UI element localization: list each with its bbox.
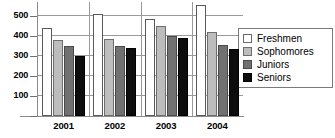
- y-tick-mark: [30, 36, 37, 37]
- x-tick-label-2004: 2004: [187, 120, 247, 131]
- bar-freshmen-2002: [93, 14, 103, 116]
- legend-label: Seniors: [257, 72, 291, 83]
- y-tick-label: 400: [0, 31, 28, 40]
- y-tick-mark: [30, 76, 37, 77]
- y-tick-mark: [30, 16, 37, 17]
- bar-chart: 100200300400500 2001200220032004 Freshme…: [0, 0, 335, 138]
- chart-legend: FreshmenSophomoresJuniorsSeniors: [238, 28, 333, 88]
- y-tick-label: 500: [0, 11, 28, 20]
- bar-group: [89, 2, 140, 116]
- legend-swatch-icon: [243, 73, 252, 82]
- x-axis-line: [20, 116, 244, 117]
- y-tick-mark: [30, 56, 37, 57]
- bar-juniors-2004: [218, 45, 228, 116]
- legend-item-sophomores[interactable]: Sophomores: [243, 45, 329, 58]
- legend-label: Freshmen: [257, 33, 302, 44]
- bar-seniors-2004: [229, 49, 239, 116]
- legend-swatch-icon: [243, 34, 252, 43]
- bar-seniors-2003: [178, 38, 188, 116]
- legend-swatch-icon: [243, 60, 252, 69]
- bar-juniors-2001: [64, 46, 74, 116]
- y-tick-label: 300: [0, 51, 28, 60]
- bar-sophomores-2004: [207, 32, 217, 116]
- legend-swatch-icon: [243, 47, 252, 56]
- legend-item-freshmen[interactable]: Freshmen: [243, 32, 329, 45]
- bar-juniors-2003: [167, 36, 177, 116]
- bar-sophomores-2003: [156, 26, 166, 116]
- group-separator: [89, 2, 90, 116]
- bar-freshmen-2001: [42, 28, 52, 116]
- legend-item-juniors[interactable]: Juniors: [243, 58, 329, 71]
- y-tick-mark: [30, 96, 37, 97]
- bar-seniors-2001: [75, 56, 85, 116]
- group-separator: [192, 2, 193, 116]
- bar-juniors-2002: [115, 46, 125, 116]
- y-tick-label: 100: [0, 91, 28, 100]
- bar-freshmen-2004: [196, 5, 206, 116]
- legend-item-seniors[interactable]: Seniors: [243, 71, 329, 84]
- legend-label: Juniors: [257, 59, 289, 70]
- bar-sophomores-2002: [104, 39, 114, 116]
- group-separator: [141, 2, 142, 116]
- y-tick-mark: [30, 116, 37, 117]
- y-tick-label: 200: [0, 71, 28, 80]
- bar-sophomores-2001: [53, 40, 63, 116]
- bar-seniors-2002: [126, 48, 136, 116]
- bar-group: [192, 2, 243, 116]
- bar-freshmen-2003: [145, 19, 155, 116]
- bar-group: [141, 2, 192, 116]
- bar-group: [38, 2, 89, 116]
- legend-label: Sophomores: [257, 46, 314, 57]
